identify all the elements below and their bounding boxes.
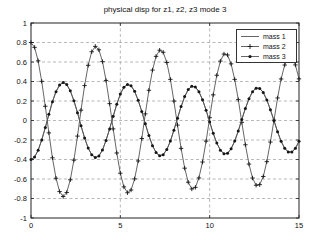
dot-marker [133, 90, 136, 93]
legend-label-mass-2: mass 2 [263, 43, 286, 50]
dot-marker [215, 142, 218, 145]
dot-marker [190, 85, 193, 88]
dot-marker [90, 153, 93, 156]
dot-marker [169, 140, 172, 143]
dot-marker [33, 156, 36, 159]
y-tick-label: -1 [20, 214, 27, 223]
dot-marker [122, 86, 125, 89]
dot-marker [151, 144, 154, 147]
dot-marker [47, 113, 50, 116]
dot-marker [298, 140, 301, 143]
legend-dot-marker-icon [240, 52, 260, 61]
dot-marker [108, 127, 111, 130]
y-tick-label: 0.6 [17, 58, 27, 67]
dot-marker [58, 83, 61, 86]
legend-line-sample-icon [240, 32, 260, 41]
dot-marker [176, 117, 179, 120]
dot-marker [194, 86, 197, 89]
dot-marker [119, 93, 122, 96]
dot-marker [180, 105, 183, 108]
chart-title: physical disp for z1, z2, z3 mode 3 [31, 5, 299, 14]
dot-marker [65, 83, 68, 86]
legend-label-mass-1: mass 1 [263, 33, 286, 40]
dot-marker [147, 134, 150, 137]
dot-marker [294, 147, 297, 150]
dot-marker [80, 124, 83, 127]
x-tick-label: 0 [29, 221, 33, 230]
legend-item-mass-2: mass 2 [237, 41, 296, 51]
dot-marker [105, 139, 108, 142]
dot-marker [201, 98, 204, 101]
dot-marker [137, 99, 140, 102]
dot-marker [251, 90, 254, 93]
dot-marker [258, 87, 261, 90]
dot-marker [240, 118, 243, 121]
dot-marker [97, 154, 100, 157]
dot-marker [237, 129, 240, 132]
dot-marker [269, 108, 272, 111]
x-tick-label: 15 [295, 221, 303, 230]
dot-marker [101, 148, 104, 151]
dot-marker [51, 100, 54, 103]
dot-marker [40, 139, 43, 142]
dot-marker [155, 151, 158, 154]
legend-item-mass-3: mass 3 [237, 51, 296, 61]
dot-marker [212, 132, 215, 135]
dot-marker [30, 158, 33, 161]
y-tick-label: 0.2 [17, 97, 27, 106]
dot-marker [144, 122, 147, 125]
y-tick-label: 0.8 [17, 38, 27, 47]
dot-marker [44, 126, 47, 129]
dot-marker [219, 149, 222, 152]
dot-marker [205, 109, 208, 112]
dot-marker [158, 154, 161, 157]
dot-marker [290, 150, 293, 153]
dot-marker [244, 107, 247, 110]
dot-marker [222, 152, 225, 155]
dot-marker [76, 111, 79, 114]
dot-marker [69, 89, 72, 92]
dot-marker [283, 147, 286, 150]
dot-marker [230, 147, 233, 150]
legend: mass 1 mass 2 mass 3 [236, 29, 297, 63]
y-tick-label: 1 [23, 19, 27, 28]
dot-marker [197, 90, 200, 93]
dot-marker [280, 140, 283, 143]
y-tick-label: 0.4 [17, 77, 27, 86]
legend-plus-marker-icon [240, 42, 260, 51]
x-tick-label: 5 [118, 221, 122, 230]
dot-marker [276, 130, 279, 133]
y-tick-label: -0.4 [14, 155, 27, 164]
figure: physical disp for z1, z2, z3 mode 3 10.8… [0, 0, 313, 240]
dot-marker [208, 120, 211, 123]
legend-item-mass-1: mass 1 [237, 31, 296, 41]
dot-marker [183, 95, 186, 98]
dot-marker [287, 150, 290, 153]
x-tick-label: 10 [205, 221, 213, 230]
y-tick-label: -0.8 [14, 194, 27, 203]
dot-marker [172, 129, 175, 132]
dot-marker [262, 91, 265, 94]
dot-marker [72, 99, 75, 102]
dot-marker [226, 152, 229, 155]
dot-marker [187, 88, 190, 91]
dot-marker [255, 87, 258, 90]
dot-marker [272, 119, 275, 122]
dot-marker [165, 148, 168, 151]
dot-marker [247, 97, 250, 100]
dot-marker [130, 84, 133, 87]
dot-marker [83, 136, 86, 139]
dot-marker [112, 115, 115, 118]
legend-label-mass-3: mass 3 [263, 53, 286, 60]
dot-marker [126, 83, 129, 86]
dot-marker [55, 90, 58, 93]
dot-marker [140, 110, 143, 113]
dot-marker [265, 98, 268, 101]
dot-marker [162, 153, 165, 156]
y-tick-label: -0.6 [14, 175, 27, 184]
dot-marker [233, 140, 236, 143]
y-tick-label: 0 [23, 116, 27, 125]
y-tick-label: -0.2 [14, 136, 27, 145]
dot-marker [115, 103, 118, 106]
dot-marker [94, 156, 97, 159]
